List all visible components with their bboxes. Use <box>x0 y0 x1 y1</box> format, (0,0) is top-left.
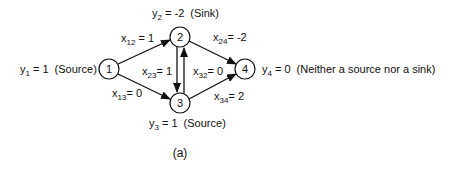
node-1-supply-label: y1 = 1(Source) <box>20 63 97 78</box>
node-4: 4 <box>235 59 255 79</box>
node-3-label: 3 <box>177 97 183 109</box>
node-2: 2 <box>170 27 190 47</box>
node-1: 1 <box>99 59 119 79</box>
node-2-label: 2 <box>177 31 183 43</box>
edge-3-4-label: x34= 2 <box>214 90 244 105</box>
network-flow-diagram: 1 2 3 4 y1 = 1(Source) y2 = -2(Sink) y3 … <box>0 0 451 171</box>
edge-2-4 <box>189 41 236 64</box>
node-1-label: 1 <box>106 63 112 75</box>
node-3-supply-label: y3 = 1(Source) <box>149 117 226 132</box>
edge-2-4-label: x24= -2 <box>213 31 247 46</box>
node-4-label: 4 <box>242 63 248 75</box>
edge-3-2-label: x32= 0 <box>193 65 223 80</box>
edge-1-2-label: x12 = 1 <box>121 32 154 47</box>
edge-1-3-label: x13= 0 <box>112 87 142 102</box>
figure-caption: (a) <box>173 146 188 160</box>
edge-2-3-label: x23= 1 <box>142 65 172 80</box>
node-3: 3 <box>170 93 190 113</box>
node-4-supply-label: y4 = 0(Neither a source nor a sink) <box>262 63 435 78</box>
node-2-supply-label: y2 = -2(Sink) <box>152 7 219 22</box>
